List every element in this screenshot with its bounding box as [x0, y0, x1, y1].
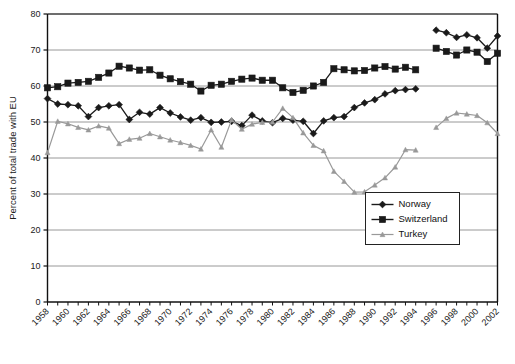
y-tick-label: 40 [30, 153, 40, 163]
data-point-marker [188, 81, 194, 87]
chart-container: 01020304050607080 1958196019621964196619… [0, 0, 515, 364]
data-point-marker [75, 79, 81, 85]
y-tick-label: 10 [30, 261, 40, 271]
line-chart: 01020304050607080 1958196019621964196619… [0, 0, 515, 364]
data-point-marker [321, 79, 327, 85]
y-tick-label: 80 [30, 9, 40, 19]
y-tick-label: 0 [35, 297, 40, 307]
data-point-marker [55, 84, 61, 90]
data-point-marker [198, 88, 204, 94]
data-point-marker [484, 58, 490, 64]
data-point-marker [259, 77, 265, 83]
data-point-marker [228, 78, 234, 84]
data-point-marker [413, 67, 419, 73]
data-point-marker [239, 76, 245, 82]
data-point-marker [392, 66, 398, 72]
y-tick-label: 70 [30, 45, 40, 55]
data-point-marker [433, 45, 439, 51]
data-point-marker [218, 81, 224, 87]
chart-background [0, 0, 515, 364]
chart-legend[interactable]: NorwaySwitzerlandTurkey [366, 193, 460, 245]
data-point-marker [249, 75, 255, 81]
data-point-marker [443, 48, 449, 54]
data-point-marker [106, 70, 112, 76]
y-tick-label: 60 [30, 81, 40, 91]
data-point-marker [269, 77, 275, 83]
data-point-marker [136, 67, 142, 73]
data-point-marker [208, 82, 214, 88]
y-axis-label: Percent of total trade with EU [7, 96, 18, 220]
data-point-marker [167, 76, 173, 82]
data-point-marker [379, 216, 385, 222]
data-point-marker [96, 74, 102, 80]
data-point-marker [65, 80, 71, 86]
y-tick-label: 50 [30, 117, 40, 127]
legend-label: Turkey [399, 228, 428, 239]
data-point-marker [310, 83, 316, 89]
data-point-marker [290, 89, 296, 95]
legend-label: Norway [399, 198, 431, 209]
data-point-marker [341, 67, 347, 73]
data-point-marker [464, 47, 470, 53]
y-axis-label-text: Percent of total trade with EU [7, 96, 18, 220]
data-point-marker [453, 52, 459, 58]
data-point-marker [85, 78, 91, 84]
data-point-marker [494, 50, 500, 56]
legend-label: Switzerland [399, 213, 448, 224]
data-point-marker [382, 63, 388, 69]
data-point-marker [300, 87, 306, 93]
data-point-marker [351, 68, 357, 74]
data-point-marker [372, 65, 378, 71]
data-point-marker [361, 67, 367, 73]
data-point-marker [331, 66, 337, 72]
y-tick-label: 30 [30, 189, 40, 199]
y-tick-label: 20 [30, 225, 40, 235]
data-point-marker [177, 79, 183, 85]
data-point-marker [147, 67, 153, 73]
data-point-marker [474, 49, 480, 55]
data-point-marker [126, 65, 132, 71]
data-point-marker [44, 85, 50, 91]
data-point-marker [116, 63, 122, 69]
data-point-marker [402, 64, 408, 70]
data-point-marker [157, 72, 163, 78]
data-point-marker [280, 85, 286, 91]
